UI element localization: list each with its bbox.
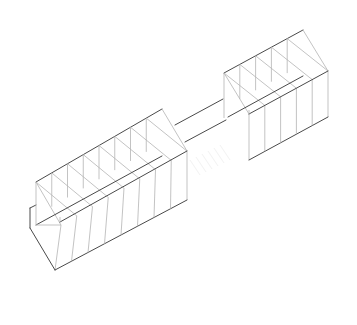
bay-post-front: [171, 160, 172, 209]
bay-diagonal: [271, 47, 312, 79]
bridge-shadow-hatch: [190, 160, 200, 175]
bridge-shadow-hatch: [208, 151, 218, 166]
bridge-shadow-hatch: [196, 157, 206, 172]
bay-diagonal: [52, 173, 93, 207]
bridge-shadow-hatch: [202, 154, 212, 169]
front-left-edge: [55, 225, 61, 270]
bay-diagonal: [36, 182, 77, 216]
bay-diagonal: [83, 155, 124, 189]
axonometric-drawing: [0, 0, 357, 325]
notch-upper-edge: [228, 76, 303, 117]
top-right-edge: [303, 30, 328, 71]
bridge-shadow-hatch: [220, 145, 230, 160]
bay-diagonal: [131, 127, 172, 160]
bay-post-front: [88, 207, 93, 253]
bay-post-front: [138, 179, 140, 227]
bridge-shadow-hatch: [214, 148, 224, 163]
bay-post-front: [72, 216, 77, 262]
bridge-bottom-edge: [185, 120, 226, 142]
bridge: [175, 99, 230, 175]
bay-diagonal: [287, 39, 328, 71]
ledge-diagonal: [30, 228, 55, 270]
left-block: [30, 109, 187, 270]
notch-lower-edge: [249, 71, 328, 114]
top-back-edge: [224, 30, 303, 73]
notch-lower-edge: [60, 151, 187, 222]
bay-post-front: [105, 197, 109, 244]
bay-diagonal: [115, 136, 156, 169]
right-block: [224, 30, 328, 160]
bay-diagonal: [99, 146, 140, 179]
bay-post-front: [121, 188, 124, 235]
ledge-top: [30, 205, 36, 208]
bridge-top-edge: [175, 99, 223, 125]
top-right-edge: [162, 109, 187, 151]
bay-diagonal: [68, 164, 109, 198]
bay-diagonal: [146, 118, 187, 151]
bay-post-front: [154, 170, 156, 218]
bottom-front-edge: [249, 117, 328, 160]
